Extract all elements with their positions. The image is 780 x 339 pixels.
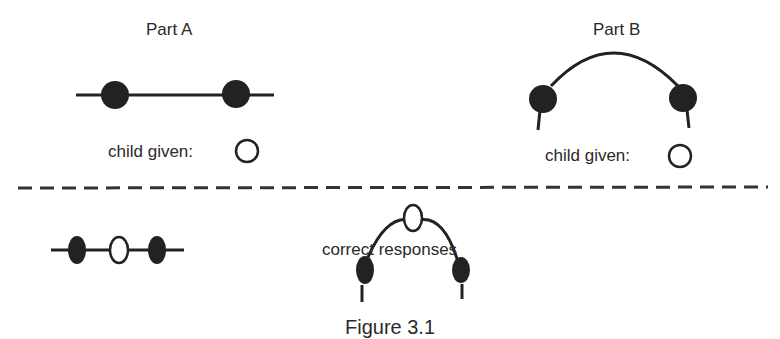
part-b-title: Part B xyxy=(593,20,640,40)
open-node-icon xyxy=(236,140,258,162)
filled-node xyxy=(101,81,129,109)
part-a-response-diagram xyxy=(51,236,184,264)
part-a-given-diagram xyxy=(76,80,274,109)
part-a-title: Part A xyxy=(146,20,192,40)
correct-responses-label: correct responses xyxy=(322,240,457,260)
part-b-given-label: child given: xyxy=(545,146,630,166)
dashed-divider xyxy=(18,187,768,188)
figure-caption: Figure 3.1 xyxy=(345,316,435,339)
filled-node xyxy=(669,84,697,112)
part-a-given-label: child given: xyxy=(108,142,193,162)
filled-node xyxy=(529,85,557,113)
open-node-icon xyxy=(669,145,691,167)
filled-node xyxy=(222,80,250,108)
part-b-given-diagram xyxy=(529,53,697,130)
